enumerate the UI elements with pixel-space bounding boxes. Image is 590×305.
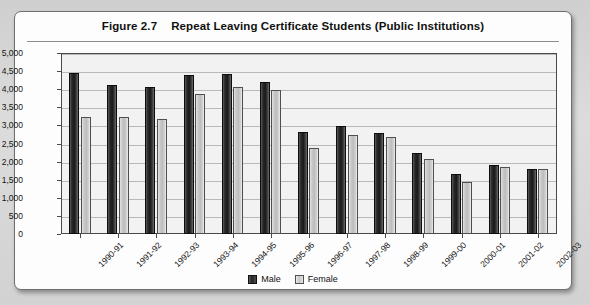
x-axis-tick-mark [233,234,234,238]
figure-number: Figure 2.7 [102,20,157,32]
y-axis-tick-mark [57,234,61,235]
x-axis-tick-mark [385,234,386,238]
bar-female [81,117,91,234]
x-axis-tick-label: 2001-02 [516,240,545,269]
bar-male [184,75,194,234]
x-axis-tick-label: 1990-91 [96,240,125,269]
bar-female [500,167,510,234]
x-axis-tick-label: 1997-98 [363,240,392,269]
chart-panel: Figure 2.7Repeat Leaving Certificate Stu… [14,11,572,290]
bar-group [519,53,557,234]
bar-male [145,87,155,234]
bar-female [271,90,281,234]
legend-item-female: Female [295,274,338,284]
bar-male [260,82,270,234]
y-axis-tick-label: 3,500 [0,102,23,112]
y-axis-tick-label: 1,500 [0,175,23,185]
chart-title: Figure 2.7Repeat Leaving Certificate Stu… [15,20,571,32]
bar-female [348,135,358,234]
y-axis-tick-label: 5,000 [0,48,23,58]
bar-group [366,53,404,234]
bar-female [386,137,396,234]
x-axis-tick-label: 1996-97 [325,240,354,269]
y-axis-tick-label: 3,000 [0,120,23,130]
x-axis-tick-mark [156,234,157,238]
x-axis-tick-mark [309,234,310,238]
bar-male [374,133,384,234]
bar-group [175,53,213,234]
y-axis-tick-label: 2,000 [0,157,23,167]
x-axis-tick-label: 1992-93 [173,240,202,269]
x-axis-tick-mark [118,234,119,238]
bars-layer [61,53,557,234]
x-axis-tick-mark [347,234,348,238]
bar-female [233,87,243,234]
legend-item-male: Male [248,274,281,284]
legend-label-female: Female [308,274,338,284]
x-axis-tick-mark [195,234,196,238]
y-axis-tick-label: 500 [0,211,23,221]
bar-female [462,182,472,234]
x-axis-tick-label: 2000-01 [478,240,507,269]
bar-female [157,119,167,234]
bar-group [481,53,519,234]
x-axis-tick-label: 1993-94 [211,240,240,269]
x-axis-tick-mark [80,234,81,238]
bar-group [404,53,442,234]
bar-male [412,153,422,234]
bar-group [99,53,137,234]
y-axis-tick-label: 2,500 [0,139,23,149]
title-divider [27,41,559,42]
x-axis-tick-label: 1999-00 [440,240,469,269]
x-axis-tick-label: 1998-99 [401,240,430,269]
x-axis-tick-mark [423,234,424,238]
y-axis-tick-label: 1,000 [0,193,23,203]
page-background: Figure 2.7Repeat Leaving Certificate Stu… [0,0,590,305]
x-axis-tick-label: 1995-96 [287,240,316,269]
bar-male [298,132,308,234]
bar-male [527,169,537,234]
bar-female [309,148,319,234]
bar-male [107,85,117,234]
bar-group [252,53,290,234]
y-axis-tick-label: 4,000 [0,84,23,94]
y-axis-tick-label: 0 [0,229,23,239]
legend-label-male: Male [261,274,281,284]
bar-group [137,53,175,234]
bar-group [214,53,252,234]
x-axis-tick-mark [500,234,501,238]
x-axis-tick-mark [538,234,539,238]
x-axis-tick-label: 2002-03 [554,240,583,269]
x-axis-tick-mark [271,234,272,238]
legend-swatch-male-icon [248,275,257,284]
bar-group [328,53,366,234]
bar-female [195,94,205,234]
bar-male [489,165,499,234]
bar-group [290,53,328,234]
chart-legend: Male Female [15,274,571,284]
bar-group [61,53,99,234]
legend-swatch-female-icon [295,275,304,284]
figure-title-text: Repeat Leaving Certificate Students (Pub… [171,20,484,32]
x-axis-tick-label: 1994-95 [249,240,278,269]
bar-female [424,159,434,234]
bar-male [222,74,232,234]
y-axis-tick-label: 4,500 [0,66,23,76]
bar-male [336,126,346,234]
bar-male [69,73,79,234]
x-axis-tick-mark [462,234,463,238]
bar-female [538,169,548,234]
bar-male [451,174,461,234]
bar-group [443,53,481,234]
x-axis-tick-label: 1991-92 [134,240,163,269]
bar-female [119,117,129,234]
